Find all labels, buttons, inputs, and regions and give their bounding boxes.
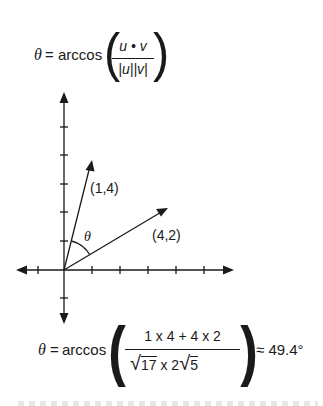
theta-symbol: θ <box>38 341 46 359</box>
bottom-formula: θ = arccos ( 1 x 4 + 4 x 2 √17 x 2√5 ) ≈… <box>0 318 323 388</box>
angle-label: θ <box>84 229 91 245</box>
vector-1-4 <box>64 166 90 270</box>
equals-sign: = <box>50 341 59 358</box>
vector-1-4-arrow <box>86 160 95 172</box>
x-axis-right-arrow <box>223 266 234 275</box>
sqrt-symbol-2: √ <box>179 352 190 374</box>
radicand-17: 17 <box>141 356 157 373</box>
sqrt-symbol: √ <box>130 352 141 374</box>
times-2: x 2 <box>157 357 180 373</box>
y-axis-up-arrow <box>60 92 69 103</box>
vector-4-2-arrow <box>156 208 168 217</box>
vector-label-4-2: (4,2) <box>152 227 181 243</box>
denominator: √17 x 2√5 <box>130 352 198 375</box>
approx-result: ≈ 49.4° <box>256 341 304 358</box>
clipped-caption <box>18 399 318 406</box>
radicand-5: 5 <box>190 356 198 373</box>
left-paren: ( <box>108 314 126 386</box>
fraction-bar <box>125 349 240 350</box>
vector-label-1-4: (1,4) <box>90 180 119 196</box>
vector-4-2 <box>64 211 163 270</box>
x-axis-left-arrow <box>16 266 27 275</box>
numerator: 1 x 4 + 4 x 2 <box>125 328 240 344</box>
arccos-label: arccos <box>62 341 106 358</box>
